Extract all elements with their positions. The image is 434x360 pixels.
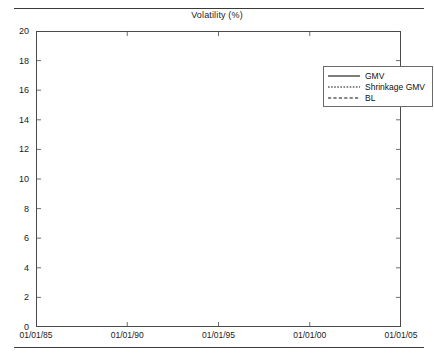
plot-area: GMVShrinkage GMVBL — [36, 31, 401, 327]
x-tick-01-01-05: 01/01/05 — [384, 331, 417, 340]
chart-legend: GMVShrinkage GMVBL — [323, 66, 433, 107]
legend-item-gmv: GMV — [327, 70, 428, 81]
y-tick-16: 16 — [19, 86, 29, 95]
x-tick-01-01-00: 01/01/00 — [293, 331, 326, 340]
y-tick-6: 6 — [24, 234, 29, 243]
legend-swatch-coarse-dashed-icon — [327, 93, 361, 103]
y-tick-18: 18 — [19, 56, 29, 65]
x-tick-01-01-95: 01/01/95 — [202, 331, 235, 340]
y-tick-8: 8 — [24, 204, 29, 213]
legend-label: BL — [365, 93, 375, 103]
page-title: Volatility (%) — [0, 10, 434, 20]
legend-label: Shrinkage GMV — [365, 82, 425, 92]
y-tick-12: 12 — [19, 145, 29, 154]
y-tick-2: 2 — [24, 293, 29, 302]
y-tick-14: 14 — [19, 115, 29, 124]
bottom-divider — [14, 347, 424, 348]
y-axis-tick-labels: 20181614121086420 — [0, 31, 33, 327]
x-tick-01-01-85: 01/01/85 — [19, 331, 52, 340]
legend-label: GMV — [365, 71, 384, 81]
y-tick-10: 10 — [19, 175, 29, 184]
top-divider — [14, 8, 424, 9]
legend-item-shrinkage-gmv: Shrinkage GMV — [327, 81, 428, 92]
legend-swatch-solid-icon — [327, 71, 361, 81]
y-tick-20: 20 — [19, 27, 29, 36]
y-tick-4: 4 — [24, 263, 29, 272]
legend-swatch-fine-dashed-icon — [327, 82, 361, 92]
x-axis-tick-labels: 01/01/8501/01/9001/01/9501/01/0001/01/05 — [0, 331, 434, 345]
x-tick-01-01-90: 01/01/90 — [111, 331, 144, 340]
legend-item-bl: BL — [327, 92, 428, 103]
